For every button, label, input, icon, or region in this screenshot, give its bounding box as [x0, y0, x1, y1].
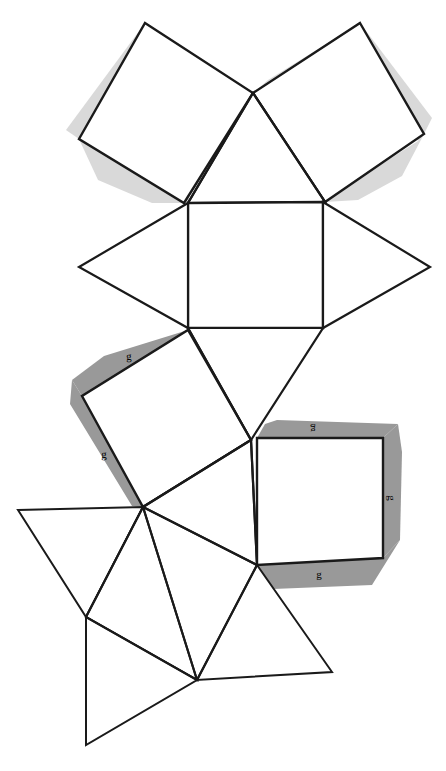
edge-label-g-lower-left-top: g [126, 350, 132, 362]
edge-label-g-lower-right-side: g [386, 495, 398, 501]
edge-label-g-lower-left-side: g [101, 448, 107, 460]
polyhedron-net-figure: g g g g g [0, 0, 446, 771]
shade-band-lower-right-square-right [383, 424, 402, 558]
face-square-lower-right [257, 438, 383, 565]
edge-label-g-lower-right-bottom: g [316, 568, 322, 580]
edge-label-g-lower-right-top: g [310, 424, 316, 436]
face-square-center [188, 202, 323, 328]
